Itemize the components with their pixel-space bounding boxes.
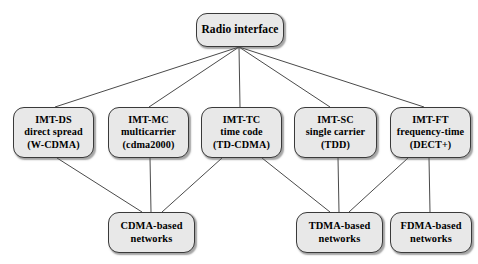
node-imt-ds-line-2: direct spread bbox=[24, 126, 82, 138]
edge-radio-interface-to-imt-ft bbox=[239, 47, 424, 107]
node-fdma-based-networks-line-1: FDMA-based bbox=[400, 220, 461, 232]
node-imt-ft: IMT-FTfrequency-time(DECT+) bbox=[390, 107, 471, 158]
edge-imt-sc-to-tdma-based-networks bbox=[338, 158, 339, 212]
node-tdma-based-networks: TDMA-basednetworks bbox=[296, 212, 383, 253]
node-imt-ds: IMT-DSdirect spread(W-CDMA) bbox=[13, 107, 94, 158]
node-imt-sc: IMT-SCsingle carrier(TDD) bbox=[294, 107, 377, 158]
node-cdma-based-networks: CDMA-basednetworks bbox=[108, 212, 195, 253]
edge-imt-ft-to-tdma-based-networks bbox=[349, 158, 408, 212]
edge-imt-tc-to-cdma-based-networks bbox=[162, 158, 222, 212]
edge-radio-interface-to-imt-mc bbox=[149, 47, 239, 107]
node-imt-ds-line-1: IMT-DS bbox=[35, 114, 71, 126]
node-imt-tc: IMT-TCtime code(TD-CDMA) bbox=[201, 107, 282, 158]
node-imt-sc-line-2: single carrier bbox=[306, 126, 365, 138]
node-imt-sc-line-3: (TDD) bbox=[321, 139, 350, 151]
edge-radio-interface-to-imt-tc bbox=[239, 47, 240, 107]
node-cdma-based-networks-line-2: networks bbox=[131, 233, 173, 245]
node-imt-ft-line-3: (DECT+) bbox=[410, 139, 452, 151]
node-cdma-based-networks-line-1: CDMA-based bbox=[120, 220, 182, 232]
node-imt-tc-line-1: IMT-TC bbox=[223, 114, 261, 126]
node-imt-tc-line-2: time code bbox=[220, 126, 262, 138]
node-imt-mc-line-1: IMT-MC bbox=[128, 114, 168, 126]
edge-imt-mc-to-cdma-based-networks bbox=[150, 158, 151, 212]
node-imt-mc: IMT-MCmulticarrier(cdma2000) bbox=[108, 107, 189, 158]
edge-radio-interface-to-imt-sc bbox=[239, 47, 330, 107]
node-radio-interface: Radio interface bbox=[196, 13, 284, 47]
node-imt-ft-line-1: IMT-FT bbox=[412, 114, 448, 126]
node-imt-ds-line-3: (W-CDMA) bbox=[27, 139, 79, 151]
node-imt-tc-line-3: (TD-CDMA) bbox=[213, 139, 270, 151]
edge-imt-ft-to-fdma-based-networks bbox=[429, 158, 430, 212]
node-imt-ft-line-2: frequency-time bbox=[397, 126, 464, 138]
node-imt-mc-line-2: multicarrier bbox=[121, 126, 176, 138]
imt-2000-radio-interface-diagram: Radio interfaceIMT-DSdirect spread(W-CDM… bbox=[0, 0, 478, 264]
node-tdma-based-networks-line-1: TDMA-based bbox=[309, 220, 371, 232]
edge-radio-interface-to-imt-ds bbox=[55, 47, 239, 107]
edge-imt-ds-to-cdma-based-networks bbox=[57, 158, 142, 212]
node-fdma-based-networks-line-2: networks bbox=[410, 233, 452, 245]
edge-imt-tc-to-tdma-based-networks bbox=[262, 158, 330, 212]
node-radio-interface-line-1: Radio interface bbox=[201, 23, 278, 37]
node-tdma-based-networks-line-2: networks bbox=[319, 233, 361, 245]
node-fdma-based-networks: FDMA-basednetworks bbox=[390, 212, 472, 253]
node-imt-sc-line-1: IMT-SC bbox=[317, 114, 353, 126]
node-imt-mc-line-3: (cdma2000) bbox=[123, 139, 175, 151]
